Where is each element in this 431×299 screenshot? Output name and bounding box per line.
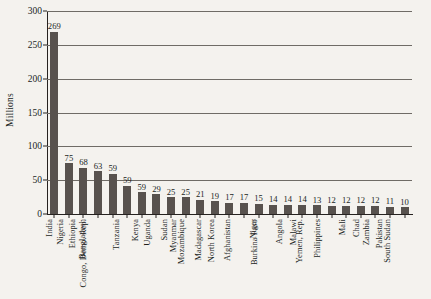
x-axis-tick-label: Madagascar — [194, 219, 203, 260]
x-axis-tick-mark — [258, 214, 259, 218]
bar-slot: 19 — [208, 11, 223, 214]
x-axis-tick-mark — [68, 214, 69, 218]
bar-value-label: 14 — [284, 195, 293, 204]
bar-slot: 14 — [266, 11, 281, 214]
bar-chart: Millions 050100150200250300 269756863595… — [0, 0, 431, 299]
x-axis-line — [47, 214, 413, 215]
bar-value-label: 63 — [94, 162, 103, 171]
bar-value-label: 75 — [65, 154, 74, 163]
x-axis-tick-mark — [360, 214, 361, 218]
bar-value-label: 68 — [79, 158, 88, 167]
x-axis-tick-mark — [112, 214, 113, 218]
bar-value-label: 12 — [342, 196, 351, 205]
x-axis-tick-label: Uganda — [143, 219, 152, 246]
bar: 14 — [298, 205, 306, 214]
bar-value-label: 14 — [269, 195, 278, 204]
x-axis-tick-mark — [214, 214, 215, 218]
bar: 59 — [123, 186, 131, 214]
bar-slot: 25 — [178, 11, 193, 214]
x-axis-tick-mark — [54, 214, 55, 218]
bar-value-label: 12 — [327, 196, 336, 205]
x-axis-tick-mark — [389, 214, 390, 218]
bar-slot: 17 — [237, 11, 252, 214]
bar-value-label: 15 — [254, 194, 263, 203]
bar: 11 — [386, 207, 394, 214]
bar: 14 — [284, 205, 292, 214]
bar-slot: 17 — [222, 11, 237, 214]
y-axis-title: Millions — [2, 0, 18, 219]
bar: 19 — [211, 201, 219, 214]
bar: 12 — [371, 206, 379, 214]
plot-area: 050100150200250300 269756863595959292525… — [47, 11, 412, 214]
bar: 59 — [109, 174, 117, 214]
x-axis-tick-mark — [127, 214, 128, 218]
x-axis-tick-label: Chad — [352, 219, 361, 237]
bar: 25 — [167, 197, 175, 214]
x-axis-tick-mark — [244, 214, 245, 218]
x-axis-tick-mark — [171, 214, 172, 218]
y-axis-tick-label: 0 — [37, 209, 42, 219]
x-axis-tick-label: Zambia — [362, 219, 371, 245]
bar-slot: 59 — [105, 11, 120, 214]
x-axis-tick-mark — [98, 214, 99, 218]
bar-value-label: 59 — [123, 176, 132, 185]
x-axis-tick-mark — [302, 214, 303, 218]
bar-value-label: 19 — [211, 192, 220, 201]
bar-slot: 11 — [383, 11, 398, 214]
x-axis-tick-mark — [83, 214, 84, 218]
x-axis-tick-mark — [331, 214, 332, 218]
x-axis-tick-label: Yemen, Rep. — [295, 219, 304, 263]
bar: 15 — [255, 204, 263, 214]
x-axis-tick-mark — [141, 214, 142, 218]
bar: 21 — [196, 200, 204, 214]
y-axis-tick-label: 50 — [33, 175, 43, 185]
bar: 29 — [152, 194, 160, 214]
x-axis-tick-label: Tanzania — [112, 219, 121, 250]
x-axis-tick-label: Mozambique — [178, 219, 187, 264]
bar-slot: 14 — [281, 11, 296, 214]
bar-slot: 10 — [397, 11, 412, 214]
x-axis-tick-label: Mali — [338, 219, 347, 235]
bar-value-label: 59 — [138, 183, 147, 192]
x-axis-tick-mark — [185, 214, 186, 218]
bar-slot: 75 — [62, 11, 77, 214]
bar: 63 — [94, 171, 102, 214]
bar-value-label: 12 — [371, 196, 380, 205]
bar-value-label: 59 — [108, 164, 117, 173]
bar: 59 — [138, 192, 146, 214]
bar-value-label: 25 — [181, 188, 190, 197]
bar-value-label: 269 — [48, 22, 61, 31]
bar-slot: 59 — [135, 11, 150, 214]
bar-slot: 12 — [339, 11, 354, 214]
x-axis-tick-mark — [156, 214, 157, 218]
bar-slot: 14 — [295, 11, 310, 214]
bar: 75 — [65, 163, 73, 214]
bar-slot: 59 — [120, 11, 135, 214]
bar-value-label: 10 — [400, 198, 409, 207]
bar: 269 — [50, 32, 58, 214]
x-axis-tick-label: Angola — [275, 219, 284, 244]
bar-slot: 12 — [368, 11, 383, 214]
bar: 12 — [357, 206, 365, 214]
x-axis-tick-mark — [375, 214, 376, 218]
y-axis-tick-label: 100 — [28, 141, 42, 151]
bar-value-label: 11 — [386, 197, 394, 206]
bar: 68 — [79, 168, 87, 214]
x-axis-tick-mark — [404, 214, 405, 218]
bar-slot: 12 — [324, 11, 339, 214]
x-axis-label-slot: Philippines — [324, 219, 339, 297]
bar: 13 — [313, 205, 321, 214]
x-axis-label-slot: Bangladesh — [91, 219, 106, 297]
x-axis-tick-label: Philippines — [312, 219, 321, 258]
bar: 17 — [225, 203, 233, 215]
bar-slot: 15 — [251, 11, 266, 214]
bar: 25 — [182, 197, 190, 214]
y-axis-tick-label: 250 — [28, 40, 42, 50]
x-axis-tick-label: Afghanistan — [223, 219, 232, 261]
x-axis-tick-label: Burkina Faso — [250, 219, 259, 265]
x-axis-tick-label: North Korea — [208, 219, 217, 262]
bar-value-label: 29 — [152, 185, 161, 194]
y-axis-tick-label: 300 — [28, 6, 42, 16]
bar-slot: 21 — [193, 11, 208, 214]
bar-series: 2697568635959592925252119171715141414131… — [47, 11, 412, 214]
